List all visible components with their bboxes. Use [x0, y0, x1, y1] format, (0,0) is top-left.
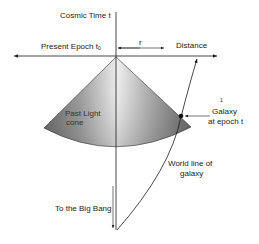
- distance-label: Distance: [176, 41, 207, 50]
- past-light-cone-label: Past Light: [65, 109, 101, 118]
- present-epoch-subscript: 0: [98, 45, 101, 51]
- world-line-label-2: galaxy: [180, 169, 203, 178]
- past-light-cone-label-2: cone: [66, 118, 83, 127]
- present-epoch-text: Present Epoch t: [41, 42, 98, 51]
- r-label: r: [139, 38, 142, 47]
- galaxy-label: Galaxy: [212, 107, 237, 116]
- big-bang-label: To the Big Bang: [55, 204, 111, 213]
- galaxy-point: [179, 114, 184, 119]
- galaxy-epoch-label: at epoch t: [208, 117, 243, 126]
- galaxy-mark: 1: [220, 96, 223, 105]
- present-epoch-label: Present Epoch t0: [41, 42, 101, 53]
- past-light-cone-shade: [44, 57, 191, 147]
- world-line-label: World line of: [168, 159, 212, 168]
- cosmic-time-label: Cosmic Time t: [60, 11, 111, 20]
